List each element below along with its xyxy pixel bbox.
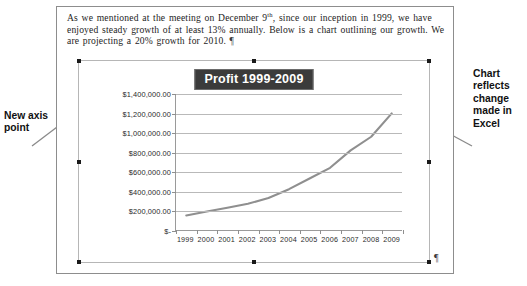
y-axis-tick-mark [172,192,176,193]
x-axis-tick-mark [259,230,260,234]
chart-gridline [176,172,402,173]
y-axis-tick-mark [172,172,176,173]
x-axis-tick-mark [382,230,383,234]
selection-handle-top-left[interactable] [77,59,81,63]
x-axis-tick-mark [403,230,404,234]
x-axis-tick-mark [176,230,177,234]
y-axis-tick-mark [172,94,176,95]
x-axis-tick-label: 2003 [259,235,276,244]
y-axis-tick-label: $800,000.00 [129,148,171,157]
chart-gridline [176,133,402,134]
x-axis-tick-label: 2008 [363,235,380,244]
x-axis-tick-label: 2007 [342,235,359,244]
callout-chart-reflects-change: Chart reflects change made in Excel [473,68,525,130]
paragraph-text-part-1: As we mentioned at the meeting on Decemb… [67,12,267,23]
selection-handle-top-middle[interactable] [252,59,256,63]
x-axis-tick-mark [341,230,342,234]
x-axis-tick-mark [238,230,239,234]
x-axis-tick-mark [197,230,198,234]
x-axis-tick-label: 2004 [280,235,297,244]
y-axis-tick-label: $1,200,000.00 [122,109,171,118]
y-axis-tick-label: $400,000.00 [129,187,171,196]
chart-plot-area[interactable] [175,94,402,231]
x-axis-labels: 1999200020012002200320042005200620072008… [175,235,402,249]
selection-handle-top-right[interactable] [427,59,431,63]
y-axis-tick-label: $1,000,000.00 [122,129,171,138]
x-axis-tick-mark [279,230,280,234]
document-page: As we mentioned at the meeting on Decemb… [56,6,454,274]
embedded-chart-object[interactable]: Profit 1999-2009 $1,400,000.00$1,200,000… [78,60,430,263]
document-paragraph: As we mentioned at the meeting on Decemb… [67,12,445,47]
x-axis-tick-label: 1999 [177,235,194,244]
y-axis-tick-label: $600,000.00 [129,168,171,177]
x-axis-tick-label: 2000 [198,235,215,244]
y-axis-labels: $1,400,000.00$1,200,000.00$1,000,000.00$… [85,94,171,231]
x-axis-tick-label: 2002 [239,235,256,244]
y-axis-tick-mark [172,211,176,212]
y-axis-tick-label: $200,000.00 [129,207,171,216]
x-axis-tick-mark [217,230,218,234]
x-axis-tick-mark [362,230,363,234]
chart-gridline [176,192,402,193]
y-axis-tick-mark [172,153,176,154]
y-axis-tick-mark [172,133,176,134]
chart-gridline [176,114,402,115]
x-axis-tick-label: 2001 [218,235,235,244]
y-axis-tick-label: $1,400,000.00 [122,90,171,99]
chart-gridline [176,211,402,212]
x-axis-tick-mark [300,230,301,234]
chart-paragraph-mark-icon: ¶ [434,252,439,263]
chart-plot-wrapper: $1,400,000.00$1,200,000.00$1,000,000.00$… [79,94,431,264]
x-axis-tick-label: 2005 [301,235,318,244]
y-axis-tick-label: $- [164,227,171,236]
chart-gridline [176,94,402,95]
paragraph-mark-icon: ¶ [230,35,235,46]
x-axis-tick-label: 2006 [321,235,338,244]
chart-title[interactable]: Profit 1999-2009 [194,69,313,90]
y-axis-tick-mark [172,114,176,115]
x-axis-tick-label: 2009 [383,235,400,244]
chart-gridline [176,153,402,154]
x-axis-tick-mark [320,230,321,234]
